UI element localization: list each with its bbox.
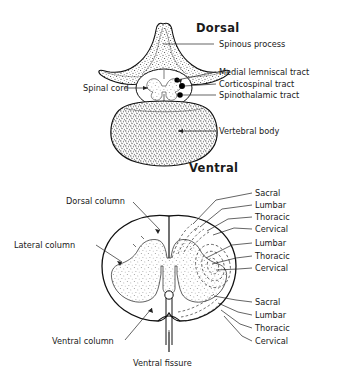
spinothalamic-dot xyxy=(177,92,183,98)
figure-canvas: Dorsal Ventral Spinous process Medial le… xyxy=(0,0,339,376)
label-corticospinal-tract: Corticospinal tract xyxy=(219,79,295,89)
label-ventral-fissure: Ventral fissure xyxy=(133,358,192,368)
vertebra-cross-section xyxy=(99,23,229,166)
orientation-ventral: Ventral xyxy=(189,161,238,175)
label-ventral-thoracic: Thoracic xyxy=(254,323,290,333)
label-ventral-column: Ventral column xyxy=(52,336,114,346)
label-dorsal-sacral: Sacral xyxy=(255,188,280,198)
label-lateral-thoracic: Thoracic xyxy=(254,251,290,261)
central-canal xyxy=(165,291,173,299)
label-spinothalamic-tract: Spinothalamic tract xyxy=(219,90,300,100)
vertebral-body-shape xyxy=(111,101,217,166)
label-lateral-column: Lateral column xyxy=(14,240,75,250)
orientation-dorsal: Dorsal xyxy=(196,21,239,35)
label-spinal-cord: Spinal cord xyxy=(83,83,129,93)
label-lateral-cervical: Cervical xyxy=(255,263,288,273)
anatomy-diagram: Dorsal Ventral Spinous process Medial le… xyxy=(0,0,339,376)
label-dorsal-column: Dorsal column xyxy=(66,196,125,206)
label-dorsal-thoracic: Thoracic xyxy=(254,212,290,222)
label-spinous-process: Spinous process xyxy=(219,39,285,49)
label-dorsal-cervical: Cervical xyxy=(255,224,288,234)
label-ventral-sacral: Sacral xyxy=(255,297,280,307)
label-ventral-cervical: Cervical xyxy=(255,336,288,346)
label-vertebral-body: Vertebral body xyxy=(219,126,279,136)
label-lateral-lumbar: Lumbar xyxy=(255,238,287,248)
label-medial-lemniscal-tract: Medial lemniscal tract xyxy=(219,67,310,77)
label-ventral-lumbar: Lumbar xyxy=(255,310,287,320)
label-dorsal-lumbar: Lumbar xyxy=(255,200,287,210)
